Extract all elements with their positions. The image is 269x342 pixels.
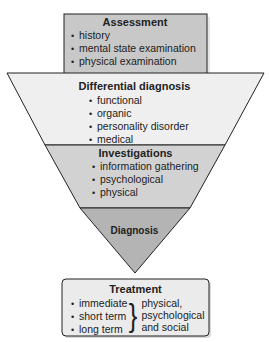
differential-list: functional organic personality disorder … bbox=[0, 94, 269, 146]
diagnosis-tip bbox=[80, 208, 190, 273]
investigations-list: information gathering psychological phys… bbox=[0, 160, 269, 199]
list-item: physical bbox=[92, 186, 269, 199]
scope-line: psychological bbox=[141, 309, 204, 321]
list-item: medical bbox=[89, 133, 269, 146]
diagnosis-title: Diagnosis bbox=[0, 224, 269, 237]
differential-title: Differential diagnosis bbox=[0, 80, 269, 93]
scope-line: and social bbox=[141, 321, 204, 333]
list-item: mental state examination bbox=[71, 42, 206, 55]
brace-icon: } bbox=[129, 298, 139, 336]
list-item: organic bbox=[89, 107, 269, 120]
list-item: immediate bbox=[71, 297, 127, 310]
investigations-title: Investigations bbox=[0, 147, 269, 160]
list-item: physical examination bbox=[71, 55, 206, 68]
differential-section: Differential diagnosis functional organi… bbox=[0, 80, 269, 146]
diagnosis-section: Diagnosis bbox=[0, 224, 269, 237]
list-item: psychological bbox=[92, 173, 269, 186]
scope-line: physical, bbox=[141, 297, 204, 309]
assessment-section: Assessment history mental state examinat… bbox=[64, 16, 206, 68]
list-item: short term bbox=[71, 310, 127, 323]
list-item: long term bbox=[71, 323, 127, 336]
list-item: history bbox=[71, 29, 206, 42]
treatment-list: immediate short term long term bbox=[62, 297, 127, 336]
treatment-scope: physical, psychological and social bbox=[139, 297, 204, 336]
list-item: information gathering bbox=[92, 160, 269, 173]
investigations-section: Investigations information gathering psy… bbox=[0, 147, 269, 199]
treatment-body: immediate short term long term } physica… bbox=[62, 297, 209, 336]
treatment-section: Treatment immediate short term long term… bbox=[62, 283, 209, 336]
list-item: personality disorder bbox=[89, 120, 269, 133]
assessment-list: history mental state examination physica… bbox=[64, 29, 206, 68]
list-item: functional bbox=[89, 94, 269, 107]
assessment-title: Assessment bbox=[64, 16, 206, 29]
treatment-title: Treatment bbox=[62, 283, 209, 296]
